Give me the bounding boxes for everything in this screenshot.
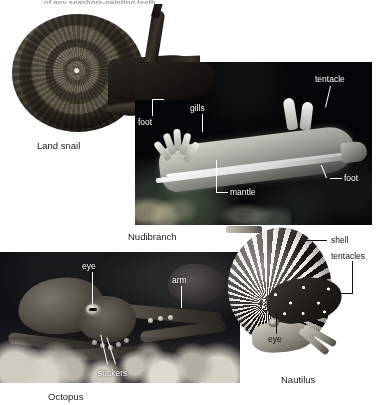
- leader-line-foot-left-h: [152, 99, 164, 100]
- caption-nudibranch: Nudibranch: [128, 231, 177, 242]
- leader-line-foot-left: [152, 100, 153, 116]
- label-foot-left: foot: [138, 117, 152, 127]
- nudibranch-gills-image: [157, 128, 197, 170]
- snail-overlap-shadow: [135, 62, 215, 100]
- octopus-panel: [0, 252, 240, 383]
- label-nautilus-eye: eye: [268, 334, 282, 344]
- caption-octopus: Octopus: [48, 391, 83, 402]
- leader-line-octopus-eye: [92, 272, 93, 304]
- leader-line-nautilus-eye: [276, 312, 277, 334]
- octopus-sucker: [158, 316, 163, 321]
- label-nautilus-shell: shell: [331, 235, 348, 245]
- octopus-head-image: [78, 296, 136, 342]
- nautilus-tentacle-image: [226, 226, 262, 233]
- coral-foreground-centre: [221, 194, 291, 225]
- label-octopus-arm: arm: [172, 275, 187, 285]
- leader-line-mantle: [216, 160, 217, 192]
- octopus-sucker: [148, 318, 153, 323]
- leader-line-nautilus-tentacles: [352, 261, 353, 293]
- label-suckers: suckers: [98, 368, 127, 378]
- caption-nautilus: Nautilus: [281, 374, 315, 385]
- caption-land-snail: Land snail: [37, 140, 80, 151]
- octopus-sucker: [168, 315, 173, 320]
- label-nautilus-tentacles: tentacles: [331, 251, 365, 261]
- leader-line-nautilus-tentacles-h: [340, 293, 353, 294]
- leader-line-nautilus-shell: [305, 240, 327, 241]
- leader-line-gills: [202, 114, 203, 132]
- mollusk-figure: of any seashore-painting teeth. Land sna…: [0, 0, 390, 405]
- label-gills: gills: [190, 103, 205, 113]
- octopus-eye-image: [86, 304, 100, 315]
- label-tentacle: tentacle: [315, 74, 345, 84]
- label-octopus-eye: eye: [82, 261, 96, 271]
- label-mantle: mantle: [230, 187, 256, 197]
- leader-line-foot-right-h: [330, 178, 342, 179]
- label-foot-right: foot: [344, 173, 358, 183]
- nautilus-panel: [226, 226, 366, 371]
- nudibranch-panel: [135, 62, 372, 225]
- nautilus-eye-image: [268, 318, 279, 327]
- leader-line-mantle-h: [216, 192, 228, 193]
- leader-line-octopus-arm: [181, 286, 182, 308]
